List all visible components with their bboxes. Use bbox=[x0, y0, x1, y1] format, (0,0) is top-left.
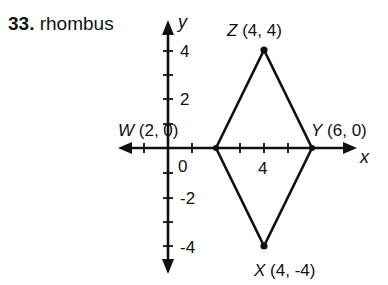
problem-number: 33. bbox=[8, 13, 34, 34]
x-axis-right-arrow-icon bbox=[343, 142, 357, 154]
x-tick-0: 0 bbox=[178, 158, 187, 175]
problem-heading: 33. rhombus bbox=[8, 14, 114, 33]
y-tick-neg4: -4 bbox=[180, 239, 195, 256]
y-tick-2: 2 bbox=[180, 91, 189, 108]
vertex-z-dot bbox=[260, 46, 267, 53]
vertex-w-dot bbox=[213, 145, 219, 151]
x-axis bbox=[118, 142, 357, 154]
y-tick-4: 4 bbox=[180, 43, 189, 60]
x-tick-4: 4 bbox=[258, 160, 267, 177]
vertex-w-label: W (2, 0) bbox=[118, 122, 178, 139]
vertex-y-dot bbox=[309, 145, 315, 151]
y-axis-label: y bbox=[178, 13, 187, 31]
x-axis-left-arrow-icon bbox=[118, 142, 132, 154]
x-axis-label: x bbox=[360, 148, 369, 166]
vertex-z-label: Z (4, 4) bbox=[227, 22, 282, 39]
problem-title: rhombus bbox=[40, 13, 114, 34]
vertex-y-label: Y (6, 0) bbox=[311, 122, 367, 139]
y-axis-up-arrow-icon bbox=[162, 20, 174, 35]
y-tick-neg2: -2 bbox=[180, 190, 195, 207]
vertex-x-label: X (4, -4) bbox=[254, 262, 315, 279]
y-axis-down-arrow-icon bbox=[162, 259, 174, 274]
vertex-x-dot bbox=[260, 242, 267, 249]
